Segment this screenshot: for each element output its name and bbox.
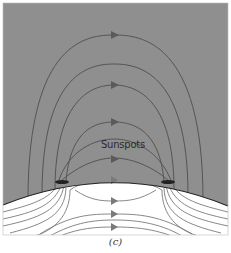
sunspot-right xyxy=(161,180,175,184)
field-lines-illustration xyxy=(0,0,231,253)
sunspot-left xyxy=(55,180,69,184)
sunspots-label: Sunspots xyxy=(98,139,148,150)
sunspot-magnetic-field-diagram: Sunspots (c) xyxy=(0,0,231,253)
figure-caption: (c) xyxy=(0,236,231,247)
